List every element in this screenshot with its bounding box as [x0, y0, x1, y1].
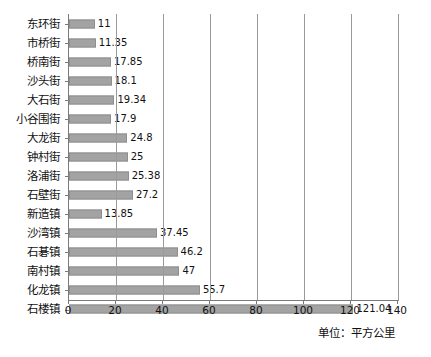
y-axis-tick-mark	[65, 100, 69, 101]
y-axis-tick-7: 钟村街	[0, 147, 64, 166]
bar-value-label: 24.8	[127, 133, 152, 143]
bar-value-label: 46.2	[178, 247, 203, 257]
bar-row: 17.85	[69, 52, 398, 71]
y-axis-tick-0: 东环街	[0, 14, 64, 33]
bar-row: 19.34	[69, 90, 398, 109]
y-axis-tick-mark	[65, 81, 69, 82]
x-axis-tick-label: 40	[155, 305, 168, 316]
y-axis-tick-label: 新造镇	[27, 208, 60, 220]
y-axis-tick-label: 桥南街	[27, 56, 60, 68]
bar-rows: 1111.3517.8518.119.3417.924.82525.3827.2…	[69, 14, 398, 300]
y-axis-tick-label: 钟村街	[27, 151, 60, 163]
bar	[69, 57, 111, 66]
x-axis-tick-label: 0	[65, 305, 72, 316]
y-axis-tick-9: 石壁街	[0, 186, 64, 205]
y-axis-tick-label: 南村镇	[27, 265, 60, 277]
y-axis-tick-mark	[65, 252, 69, 253]
y-axis-tick-mark	[65, 195, 69, 196]
x-axis: 020406080100120140	[68, 300, 397, 320]
bar	[69, 172, 129, 181]
bar-value-label: 19.34	[114, 95, 146, 105]
bar-row: 47	[69, 262, 398, 281]
bar	[69, 286, 200, 295]
y-axis-tick-mark	[65, 271, 69, 272]
y-axis-tick-3: 沙头街	[0, 71, 64, 90]
y-axis-tick-12: 石碁镇	[0, 243, 64, 262]
bar	[69, 210, 102, 219]
y-axis-tick-4: 大石街	[0, 90, 64, 109]
bar-value-label: 27.2	[133, 190, 158, 200]
bar	[69, 248, 178, 257]
bar	[69, 229, 157, 238]
x-axis-tick-label: 120	[340, 305, 360, 316]
y-axis-tick-label: 东环街	[27, 18, 60, 30]
y-axis-tick-14: 化龙镇	[0, 281, 64, 300]
gridline-60	[210, 14, 211, 300]
y-axis-tick-1: 市桥街	[0, 33, 64, 52]
y-axis-tick-label: 石壁街	[27, 189, 60, 201]
bar-value-label: 47	[179, 266, 195, 276]
bar-value-label: 25	[128, 152, 144, 162]
y-axis-tick-label: 洛浦街	[27, 170, 60, 182]
y-axis-tick-mark	[65, 233, 69, 234]
y-axis-tick-label: 化龙镇	[27, 284, 60, 296]
y-axis-tick-mark	[65, 43, 69, 44]
gridline-120	[351, 14, 352, 300]
y-axis-tick-13: 南村镇	[0, 262, 64, 281]
bar	[69, 191, 133, 200]
bar-chart: 东环街市桥街桥南街沙头街大石街小谷围街大龙街钟村街洛浦街石壁街新造镇沙湾镇石碁镇…	[0, 0, 431, 357]
y-axis-tick-mark	[65, 62, 69, 63]
x-axis-tick-label: 60	[202, 305, 215, 316]
bar-value-label: 17.9	[111, 114, 136, 124]
y-axis-tick-label: 大石街	[27, 94, 60, 106]
gridline-20	[116, 14, 117, 300]
bar	[69, 133, 127, 142]
bar-row: 46.2	[69, 243, 398, 262]
gridline-80	[257, 14, 258, 300]
x-axis-tick-label: 100	[293, 305, 313, 316]
bar	[69, 38, 96, 47]
y-axis-tick-label: 石碁镇	[27, 246, 60, 258]
bar-row: 25.38	[69, 167, 398, 186]
y-axis-tick-mark	[65, 24, 69, 25]
bar-row: 13.85	[69, 205, 398, 224]
plot-area: 1111.3517.8518.119.3417.924.82525.3827.2…	[68, 14, 399, 301]
bar-row: 17.9	[69, 109, 398, 128]
x-axis-tick-label: 20	[108, 305, 121, 316]
y-axis-tick-mark	[65, 157, 69, 158]
y-axis-tick-10: 新造镇	[0, 205, 64, 224]
bar-row: 24.8	[69, 128, 398, 147]
y-axis-tick-6: 大龙街	[0, 128, 64, 147]
y-axis-tick-label: 大龙街	[27, 132, 60, 144]
bar-value-label: 25.38	[129, 171, 161, 181]
gridline-100	[304, 14, 305, 300]
bar-row: 11	[69, 14, 398, 33]
bar-row: 55.7	[69, 281, 398, 300]
y-axis-tick-label: 石楼镇	[27, 303, 60, 315]
y-axis-tick-8: 洛浦街	[0, 167, 64, 186]
y-axis-tick-mark	[65, 214, 69, 215]
y-axis-tick-11: 沙湾镇	[0, 224, 64, 243]
bar-row: 37.45	[69, 224, 398, 243]
x-axis-tick-label: 140	[387, 305, 407, 316]
y-axis-tick-2: 桥南街	[0, 52, 64, 71]
y-axis-tick-mark	[65, 138, 69, 139]
bar	[69, 95, 114, 104]
y-axis-tick-label: 沙头街	[27, 75, 60, 87]
y-axis-category-labels: 东环街市桥街桥南街沙头街大石街小谷围街大龙街钟村街洛浦街石壁街新造镇沙湾镇石碁镇…	[0, 14, 64, 300]
bar-row: 25	[69, 147, 398, 166]
bar	[69, 114, 111, 123]
y-axis-tick-mark	[65, 290, 69, 291]
bar	[69, 19, 95, 28]
bar-row: 11.35	[69, 33, 398, 52]
y-axis-tick-label: 市桥街	[27, 37, 60, 49]
bar	[69, 152, 128, 161]
y-axis-tick-5: 小谷围街	[0, 109, 64, 128]
gridline-40	[163, 14, 164, 300]
unit-caption: 单位：平方公里	[318, 327, 395, 339]
x-axis-tick-label: 80	[249, 305, 262, 316]
y-axis-tick-mark	[65, 119, 69, 120]
y-axis-tick-label: 小谷围街	[16, 113, 60, 125]
bar-value-label: 13.85	[102, 209, 134, 219]
y-axis-tick-mark	[65, 176, 69, 177]
